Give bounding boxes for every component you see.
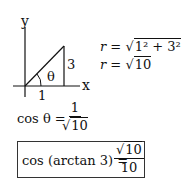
x-axis-label: x <box>82 78 90 92</box>
r-lhs: r = <box>100 57 121 72</box>
r-equation-2: r = √10 <box>100 58 151 71</box>
cos-fraction: 1 √10 <box>62 100 88 133</box>
result-denominator: 10 <box>121 159 138 175</box>
cos-lhs: cos θ = <box>17 112 66 125</box>
opposite-side-label: 3 <box>67 58 75 71</box>
result-fraction: √10 10 <box>114 142 144 175</box>
math-diagram: y x θ 3 1 r = √1² + 3² r = √10 cos θ = 1… <box>0 0 190 179</box>
r-rhs: 1² + 3² <box>134 38 181 54</box>
cos-denominator: 10 <box>70 117 88 133</box>
r-equation-1: r = √1² + 3² <box>100 40 181 53</box>
y-axis-label: y <box>21 14 29 28</box>
cos-numerator: 1 <box>69 100 81 117</box>
adjacent-side-label: 1 <box>38 89 46 102</box>
r-lhs: r = <box>100 39 121 54</box>
result-lhs: cos (arctan 3) = <box>22 154 128 167</box>
sqrt-icon: √ <box>125 39 133 54</box>
result-numerator: 10 <box>124 141 142 157</box>
theta-label: θ <box>47 70 55 83</box>
r-rhs: 10 <box>134 56 152 72</box>
sqrt-icon: √ <box>125 57 133 72</box>
